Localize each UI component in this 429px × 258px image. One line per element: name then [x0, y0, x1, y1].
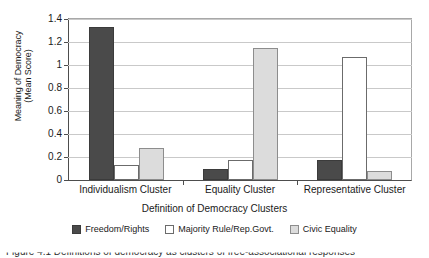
- y-axis-tick-mark: [64, 157, 68, 158]
- y-axis-tick-label: 0.6: [22, 106, 68, 116]
- legend-label: Civic Equality: [303, 224, 357, 235]
- y-axis-title-line2: (Mean Score): [23, 49, 33, 102]
- bar: [253, 48, 278, 180]
- bar: [317, 160, 342, 180]
- bar-cluster: [69, 18, 183, 180]
- bar: [139, 148, 164, 180]
- y-axis-tick-label: 0: [22, 175, 68, 185]
- bar: [342, 57, 367, 180]
- bar: [367, 171, 392, 180]
- y-axis-tick-label: 0.4: [22, 129, 68, 139]
- legend-label: Freedom/Rights: [85, 224, 149, 235]
- bar: [203, 169, 228, 181]
- x-axis-tick-label: Equality Cluster: [183, 184, 298, 198]
- bar-clusters: [69, 18, 411, 180]
- x-axis-tick-label: Representative Cluster: [297, 184, 412, 198]
- plot-area: 00.20.40.60.811.21.4: [68, 18, 412, 181]
- y-axis-tick-label: 0.2: [22, 152, 68, 162]
- y-axis-tick-mark: [64, 134, 68, 135]
- figure-caption-strip: Figure 4.1 Definitions of democracy as c…: [0, 248, 429, 258]
- x-axis-tick-labels: Individualism ClusterEquality ClusterRep…: [68, 184, 412, 198]
- y-axis-tick-label: 1.4: [22, 14, 68, 24]
- x-axis-title: Definition of Democracy Clusters: [0, 203, 429, 215]
- legend-label: Majority Rule/Rep.Govt.: [178, 224, 274, 235]
- y-axis-tick-mark: [64, 65, 68, 66]
- legend-swatch-icon: [290, 225, 299, 234]
- y-axis-tick-label: 0.8: [22, 83, 68, 93]
- figure-caption: Figure 4.1 Definitions of democracy as c…: [6, 248, 355, 258]
- y-axis-tick-mark: [64, 180, 68, 181]
- bar: [89, 27, 114, 180]
- bar: [228, 160, 253, 180]
- y-axis-tick-label: 1: [22, 60, 68, 70]
- bar-cluster: [297, 18, 411, 180]
- chart-legend: Freedom/RightsMajority Rule/Rep.Govt.Civ…: [0, 224, 429, 235]
- y-axis-tick-mark: [64, 88, 68, 89]
- figure-bar-chart: Meaning of Democracy (Mean Score) 00.20.…: [0, 0, 429, 258]
- bar-cluster: [183, 18, 297, 180]
- y-axis-tick-label: 1.2: [22, 37, 68, 47]
- legend-swatch-icon: [72, 225, 81, 234]
- y-axis-tick-mark: [64, 19, 68, 20]
- legend-swatch-icon: [165, 225, 174, 234]
- bar: [114, 165, 139, 180]
- legend-item: Civic Equality: [290, 224, 357, 235]
- x-axis-tick-label: Individualism Cluster: [68, 184, 183, 198]
- legend-item: Majority Rule/Rep.Govt.: [165, 224, 274, 235]
- y-axis-tick-mark: [64, 42, 68, 43]
- legend-item: Freedom/Rights: [72, 224, 149, 235]
- y-axis-tick-mark: [64, 111, 68, 112]
